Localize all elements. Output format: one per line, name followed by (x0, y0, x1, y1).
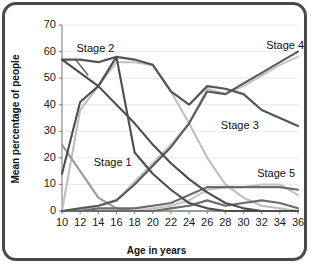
x-tick-label: 30 (234, 216, 254, 228)
x-tick-label: 26 (197, 216, 217, 228)
x-tick-label: 22 (161, 216, 181, 228)
annotation-stage-3: Stage 3 (221, 119, 259, 131)
y-tick-label: 10 (34, 177, 56, 189)
x-tick-label: 18 (125, 216, 145, 228)
x-axis-title: Age in years (0, 245, 313, 256)
x-tick-label: 14 (88, 216, 108, 228)
y-axis-title: Mean percentage of people (10, 26, 21, 212)
x-tick-label: 20 (143, 216, 163, 228)
y-axis-title-wrapper: Mean percentage of people (10, 26, 24, 212)
annotation-stage-4: Stage 4 (266, 39, 304, 51)
y-tick-label: 50 (34, 71, 56, 83)
x-tick-label: 16 (106, 216, 126, 228)
y-tick-label: 20 (34, 151, 56, 163)
x-tick-label: 28 (215, 216, 235, 228)
x-tick-label: 10 (52, 216, 72, 228)
annotation-stage-5: Stage 5 (257, 167, 295, 179)
line-chart: 010203040506070 101214161820222426283032… (0, 0, 313, 267)
annotation-stage-2: Stage 2 (77, 42, 115, 54)
x-tick-label: 12 (70, 216, 90, 228)
x-tick-label: 36 (288, 216, 308, 228)
x-tick-label: 24 (179, 216, 199, 228)
y-tick-label: 40 (34, 98, 56, 110)
y-tick-label: 30 (34, 124, 56, 136)
x-tick-label: 34 (270, 216, 290, 228)
y-tick-label: 60 (34, 45, 56, 57)
y-tick-label: 70 (34, 18, 56, 30)
x-tick-label: 32 (252, 216, 272, 228)
series-line-stage-3-alt (62, 57, 298, 126)
annotation-stage-1: Stage 1 (94, 156, 132, 168)
y-tick-label: 0 (34, 204, 56, 216)
